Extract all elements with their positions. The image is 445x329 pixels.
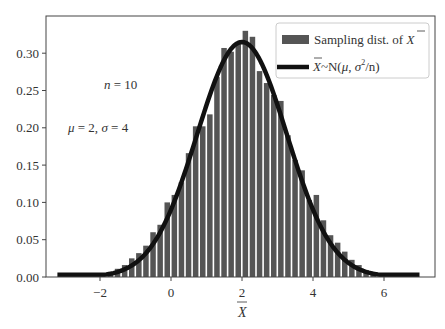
annotation-n: n = 10 — [104, 77, 137, 92]
x-tick-label: 6 — [381, 285, 388, 300]
x-tick-label: 2 — [239, 285, 246, 300]
histogram-bar — [207, 114, 213, 277]
histogram-bar — [214, 77, 220, 277]
histogram-bar — [228, 52, 234, 277]
histogram-bar — [257, 71, 263, 277]
histogram-bar — [243, 31, 249, 277]
y-tick-label: 0.00 — [16, 270, 39, 285]
histogram-bar — [307, 200, 313, 277]
histogram-bar — [292, 160, 298, 277]
x-tick-label: −2 — [93, 285, 107, 300]
histogram-bar — [236, 42, 242, 277]
legend-hist-swatch — [282, 35, 309, 44]
x-tick-label: 4 — [310, 285, 317, 300]
histogram-bar — [179, 182, 185, 277]
legend: Sampling dist. of X X~N(μ, σ2/n) — [276, 23, 429, 78]
chart: 0.000.050.100.150.200.250.30 −20246 n = … — [0, 0, 445, 329]
y-tick-label: 0.20 — [16, 120, 39, 135]
histogram-bar — [200, 126, 206, 277]
legend-line-label: X~N(μ, σ2/n) — [312, 58, 380, 74]
histogram-bar — [264, 83, 270, 277]
histogram-bar — [250, 37, 256, 277]
histogram-bar — [285, 135, 291, 277]
y-tick-label: 0.10 — [16, 195, 39, 210]
histogram-bar — [271, 95, 277, 277]
x-axis: −20246 — [93, 277, 388, 300]
legend-hist-label: Sampling dist. of X — [314, 32, 415, 47]
y-tick-label: 0.15 — [16, 158, 39, 173]
x-tick-label: 0 — [168, 285, 175, 300]
histogram-bar — [221, 48, 227, 277]
y-tick-label: 0.30 — [16, 46, 39, 61]
annotation-params: μ = 2, σ = 4 — [67, 120, 129, 135]
y-tick-label: 0.05 — [16, 232, 39, 247]
y-axis: 0.000.050.100.150.200.250.30 — [16, 46, 46, 285]
y-tick-label: 0.25 — [16, 83, 39, 98]
x-axis-label: X — [237, 305, 247, 320]
